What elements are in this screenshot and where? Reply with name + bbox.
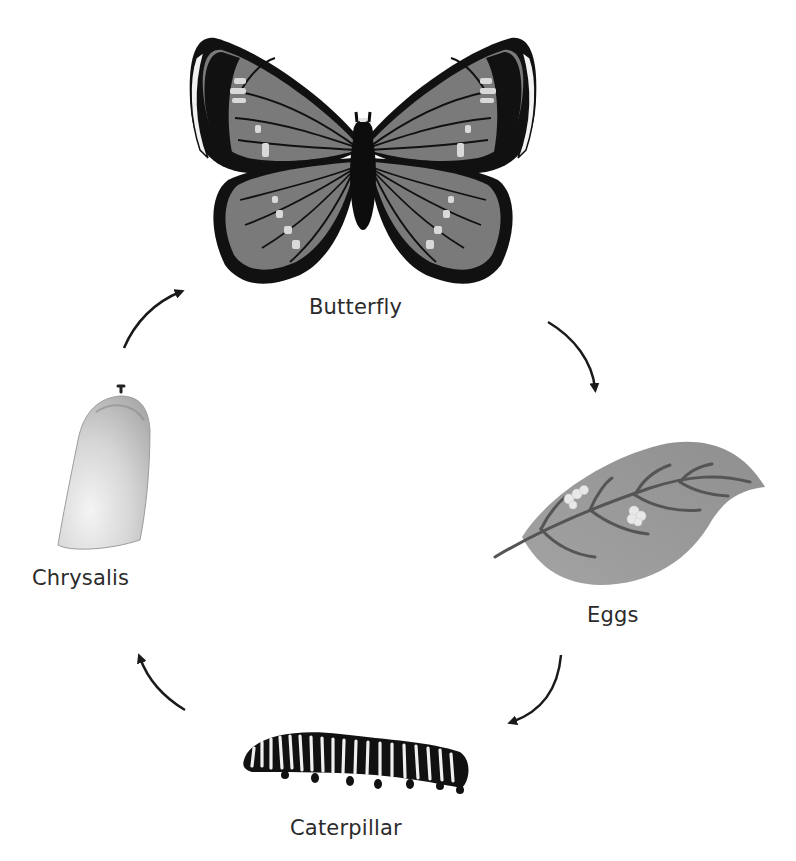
label-eggs: Eggs bbox=[587, 603, 639, 627]
butterfly-illustration bbox=[190, 38, 537, 284]
arrow-butterfly-to-eggs bbox=[548, 322, 595, 388]
caterpillar-illustration bbox=[243, 732, 468, 794]
arrow-chrysalis-to-butterfly bbox=[124, 292, 180, 348]
arrow-caterpillar-to-chrysalis bbox=[140, 658, 185, 710]
cycle-arrows bbox=[124, 292, 595, 722]
label-caterpillar: Caterpillar bbox=[290, 816, 402, 840]
life-cycle-diagram bbox=[0, 0, 796, 861]
label-butterfly: Butterfly bbox=[309, 295, 402, 319]
label-chrysalis: Chrysalis bbox=[32, 566, 129, 590]
chrysalis-illustration bbox=[58, 386, 150, 549]
arrow-eggs-to-caterpillar bbox=[512, 655, 561, 722]
leaf-with-eggs-illustration bbox=[495, 442, 765, 585]
